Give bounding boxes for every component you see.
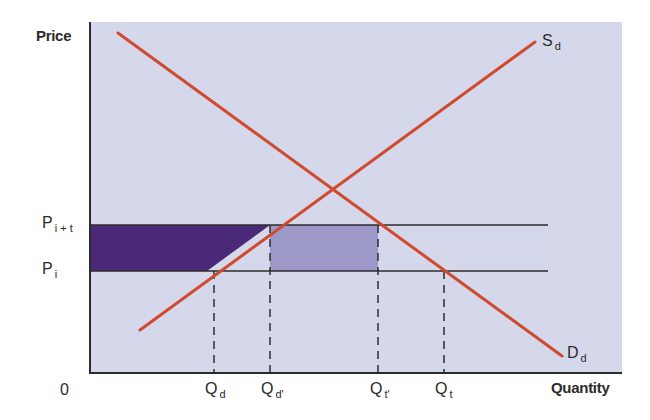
supply-label: Sd: [542, 32, 561, 52]
price-label-pi: Pi: [42, 260, 57, 280]
supply-label-main: S: [542, 32, 553, 49]
supply-label-sub: d: [555, 40, 561, 52]
qty-label-qt-prime-sub: t': [384, 388, 389, 400]
qty-label-qd-prime-sub: d': [275, 388, 283, 400]
qty-label-qt: Qt: [435, 380, 453, 400]
origin-label: 0: [60, 381, 69, 399]
qty-label-qt-prime: Qt': [370, 380, 390, 400]
qty-label-qt-prime-main: Q: [370, 380, 382, 397]
price-label-pit-sub: i + t: [55, 222, 73, 234]
qty-label-qt-sub: t: [449, 388, 452, 400]
tariff-revenue-region: [270, 225, 378, 271]
x-axis-title: Quantity: [551, 379, 609, 396]
demand-label: Dd: [567, 344, 587, 364]
price-label-pi-main: P: [42, 260, 53, 277]
qty-label-qd-prime: Qd': [261, 380, 284, 400]
qty-label-qt-main: Q: [435, 380, 447, 397]
price-label-pi-sub: i: [55, 268, 57, 280]
demand-label-sub: d: [581, 352, 587, 364]
price-label-pit-main: P: [42, 214, 53, 231]
qty-label-qd-prime-main: Q: [261, 380, 273, 397]
price-label-pit: Pi + t: [42, 214, 73, 234]
tariff-chart: [0, 0, 650, 420]
plot-panel: [90, 22, 622, 373]
y-axis-title: Price: [36, 27, 71, 44]
qty-label-qd-sub: d: [219, 388, 225, 400]
qty-label-qd-main: Q: [205, 380, 217, 397]
qty-label-qd: Qd: [205, 380, 226, 400]
demand-label-main: D: [567, 344, 579, 361]
